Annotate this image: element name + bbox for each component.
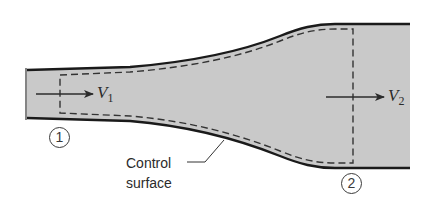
velocity-symbol: V	[388, 86, 398, 105]
outlet-velocity-label: V2	[388, 88, 404, 109]
diffuser-control-volume-diagram: V1 V2 1 2 Control surface	[0, 0, 437, 210]
inlet-velocity-label: V1	[97, 85, 113, 106]
control-surface-label-line1: Control	[126, 155, 171, 171]
velocity-symbol: V	[97, 83, 107, 102]
velocity-subscript: 2	[398, 94, 404, 108]
section-1-marker: 1	[49, 127, 70, 148]
velocity-subscript: 1	[107, 91, 113, 105]
control-surface-label-line2: surface	[126, 175, 172, 191]
diagram-graphics	[0, 0, 437, 210]
section-2-marker: 2	[341, 173, 362, 194]
control-surface-leader-line	[187, 140, 224, 162]
